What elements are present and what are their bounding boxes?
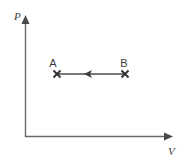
volume-axis-arrowhead-icon	[164, 133, 173, 141]
pressure-axis-arrowhead-icon	[22, 15, 30, 24]
pv-diagram-canvas: P V A B	[0, 0, 187, 162]
pv-diagram-figure: P V A B	[0, 0, 187, 162]
pressure-axis-label: P	[13, 10, 21, 22]
point-a-label: A	[49, 57, 57, 69]
volume-axis-label: V	[168, 145, 176, 157]
point-b-label: B	[120, 57, 127, 69]
